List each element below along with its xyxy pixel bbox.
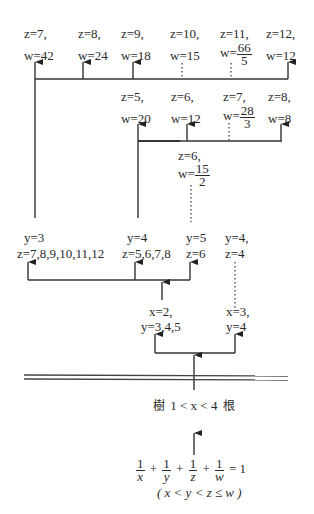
w-value: w=665 <box>220 42 252 67</box>
bound-label: 樹 1 < x < 4 根 <box>153 398 235 414</box>
w-value: w=18 <box>121 48 151 63</box>
node-z7: z=7, w=42 <box>24 26 54 63</box>
node-x2: x=2, y=3,4,5 <box>141 304 181 334</box>
z-value: z=8, <box>78 26 108 41</box>
node-y5-result: z=6, w=152 <box>178 148 210 188</box>
root-equation: 1x + 1y + 1z + 1w = 1 <box>134 458 246 483</box>
node-y3: y=3 z=7,8,9,10,11,12 <box>17 230 104 261</box>
node-y4-x3: y=4, z=4 <box>225 230 249 261</box>
node-z9: z=9, w=18 <box>121 26 151 63</box>
node-z7: z=7, w=283 <box>223 89 255 130</box>
w-value: w=42 <box>24 48 54 63</box>
w-value: w=15 <box>170 48 200 63</box>
node-z8: z=8, w=24 <box>78 26 108 63</box>
node-z12: z=12, w=12 <box>266 26 296 63</box>
z-value: z=11, <box>220 26 252 41</box>
node-y4: y=4 z=5,6,7,8 <box>122 230 171 261</box>
z-value: z=12, <box>266 26 296 41</box>
w-value: w=24 <box>78 48 108 63</box>
w-value: w=12 <box>266 48 296 63</box>
fraction: 665 <box>237 42 252 67</box>
z-value: z=10, <box>170 26 200 41</box>
z-value: z=7, <box>24 26 54 41</box>
node-z8: z=8, w=8 <box>268 89 291 126</box>
fraction: 152 <box>195 163 210 188</box>
node-z5: z=5, w=20 <box>121 89 151 126</box>
node-y5: y=5 z=6 <box>186 230 206 261</box>
node-x3: x=3, y=4 <box>226 304 250 334</box>
fraction: 283 <box>240 105 255 130</box>
z-value: z=9, <box>121 26 151 41</box>
node-z6: z=6, w=12 <box>171 89 201 126</box>
node-z11: z=11, w=665 <box>220 26 252 67</box>
constraint: ( x < y < z ≤ w ) <box>157 485 242 500</box>
node-z10: z=10, w=15 <box>170 26 200 63</box>
